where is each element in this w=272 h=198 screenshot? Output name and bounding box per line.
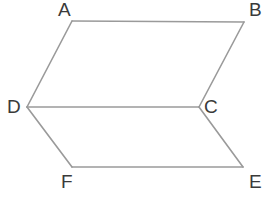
vertex-label-b: B <box>249 0 262 19</box>
edge-df <box>27 107 72 167</box>
vertex-label-e: E <box>249 172 262 191</box>
figure-canvas <box>0 0 272 198</box>
edge-group <box>27 21 244 167</box>
vertex-label-c: C <box>204 97 218 116</box>
edge-ab <box>72 21 244 22</box>
edge-da <box>27 21 72 107</box>
geometry-figure: A B C D E F <box>0 0 272 198</box>
vertex-label-f: F <box>61 172 73 191</box>
vertex-label-a: A <box>58 0 71 19</box>
vertex-label-d: D <box>7 97 21 116</box>
edge-bc <box>199 22 244 107</box>
